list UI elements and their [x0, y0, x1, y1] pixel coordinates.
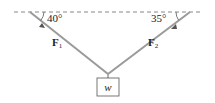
force-f1-label: F1 [52, 36, 63, 50]
angle-arc-left [41, 12, 44, 21]
angle-right-label: 35° [151, 12, 166, 24]
angle-arc-right [176, 12, 179, 20]
weight-label: w [104, 81, 112, 93]
force-diagram: 40° 35° F1 F2 w [0, 0, 215, 103]
angle-left-label: 40° [47, 12, 62, 24]
rope-left [30, 12, 108, 74]
